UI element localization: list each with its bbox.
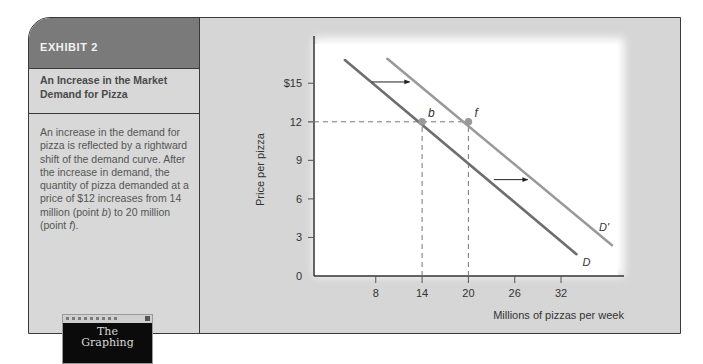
exhibit-sidebar: EXHIBIT 2 An Increase in the Market Dema… (29, 18, 200, 333)
toolbar-icons (66, 317, 118, 320)
x-tick-label: 8 (373, 287, 379, 299)
cover-title: The Graphing (63, 323, 152, 348)
y-tick-label: 0 (296, 270, 302, 282)
exhibit-label: EXHIBIT 2 (40, 41, 98, 53)
book-cover-thumbnail[interactable]: The Graphing (62, 314, 153, 364)
toolbar-button-icon (145, 316, 150, 321)
curve-label-d: D (582, 256, 590, 268)
exhibit-caption: An increase in the demand for pizza is r… (29, 114, 199, 232)
x-tick-label: 26 (509, 287, 521, 299)
point-b (418, 118, 426, 126)
caption-text: ). (72, 219, 78, 231)
x-axis-label: Millions of pizzas per week (493, 309, 624, 321)
y-tick-label: 6 (296, 193, 302, 205)
demand-chart: 036912$15814202632Price per pizzaMillion… (200, 18, 681, 334)
y-axis-label: Price per pizza (254, 132, 266, 206)
exhibit-title: An Increase in the Market Demand for Piz… (29, 69, 199, 114)
caption-text: An increase in the demand for pizza is r… (40, 126, 189, 218)
y-tick-label: 12 (290, 116, 302, 128)
chart-area: 036912$15814202632Price per pizzaMillion… (200, 18, 680, 333)
exhibit-frame: EXHIBIT 2 An Increase in the Market Dema… (28, 17, 681, 334)
y-tick-label: 9 (296, 154, 302, 166)
x-tick-label: 20 (462, 287, 474, 299)
y-tick-label: 3 (296, 231, 302, 243)
x-tick-label: 32 (555, 287, 567, 299)
y-tick-label: $15 (284, 77, 302, 89)
x-tick-label: 14 (416, 287, 428, 299)
cover-toolbar (63, 315, 152, 323)
exhibit-header: EXHIBIT 2 (29, 18, 199, 69)
curve-label-d-prime: D' (599, 221, 610, 233)
point-label-b: b (428, 106, 435, 120)
cover-title-line2: Graphing (63, 337, 152, 348)
point-f (465, 118, 473, 126)
